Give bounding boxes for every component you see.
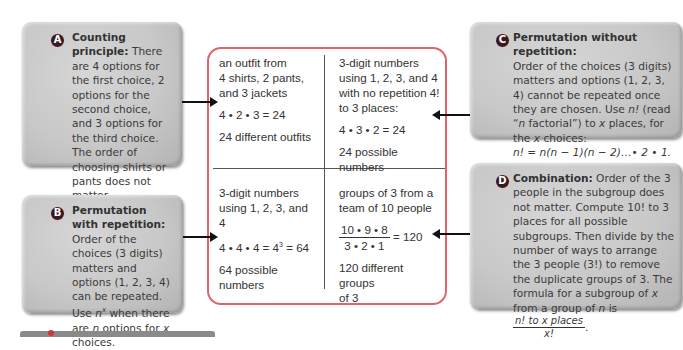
arrow-right-icon: [182, 101, 212, 103]
callout-title: Counting principle:: [72, 31, 129, 57]
cell-permutation-no-repetition: 3-digit numbers using 1, 2, 3, and 4 wit…: [331, 55, 447, 167]
equation: 4 • 2 • 3 = 24: [219, 107, 315, 122]
callout-body: There are 4 options for the first choice…: [72, 45, 166, 201]
badge-a-icon: A: [50, 33, 65, 48]
callout-body: Order of the choices (3 digits) matters …: [513, 60, 671, 158]
callout-counting-principle: A Counting principle: There are 4 option…: [22, 22, 182, 166]
callout-combination: D Combination: Order of the 3 people in …: [470, 163, 682, 309]
arrow-left-icon: [438, 233, 470, 235]
badge-d-icon: D: [495, 174, 510, 189]
equation: 4 • 4 • 4 = 43 = 64: [219, 237, 315, 255]
factorial-formula: n! = n(n − 1)(n − 2)…• 2 • 1.: [513, 146, 671, 158]
equation: 4 • 3 • 2 = 24: [339, 122, 441, 137]
result: 120 different groups: [339, 260, 441, 290]
callout-title: Combination:: [513, 172, 593, 184]
result: 24 possible numbers: [339, 144, 441, 174]
callout-title: Permutation with repetition:: [72, 204, 165, 230]
cell-permutation-repetition: 3-digit numbers using 1, 2, 3, and 4 4 •…: [209, 181, 321, 301]
combination-formula: n! to x placesx!: [513, 315, 585, 340]
result: 64 possible: [219, 262, 315, 277]
callout-permutation-with-repetition: B Permutation with repetition: Order of …: [22, 195, 183, 313]
badge-c-icon: C: [495, 33, 510, 48]
cell-outfit-example: an outfit from 4 shirts, 2 pants, and 3 …: [209, 55, 321, 165]
arrow-right-icon: [183, 236, 212, 238]
result: 24 different outfits: [219, 129, 315, 144]
badge-partial-icon: [48, 330, 54, 336]
callout-body: Order of the 3 people in the subgroup do…: [513, 172, 674, 333]
arrow-left-icon: [438, 114, 470, 116]
badge-b-icon: B: [50, 206, 65, 221]
callout-title: Permutation without repetition:: [513, 30, 674, 59]
callout-permutation-without-repetition: C Permutation without repetition: Order …: [470, 22, 682, 138]
cell-combination: groups of 3 from a team of 10 people 10 …: [331, 181, 447, 301]
examples-table: an outfit from 4 shirts, 2 pants, and 3 …: [207, 47, 447, 305]
equation: 10 • 9 • 83 • 2 • 1 = 120: [339, 222, 441, 253]
vertical-divider: [324, 55, 325, 289]
